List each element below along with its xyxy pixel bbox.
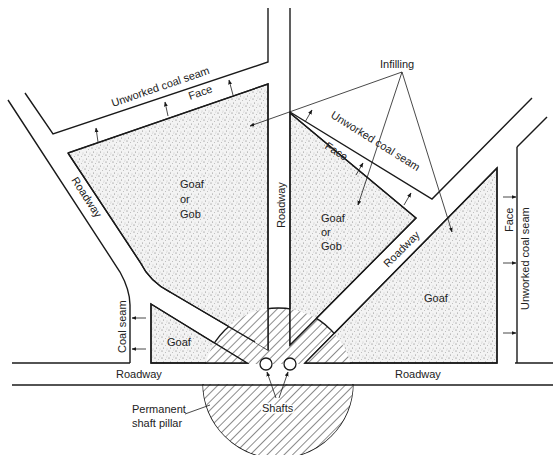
label-face-right: Face [503, 208, 515, 232]
label-shafts: Shafts [262, 402, 294, 414]
label-goaf-left-3: Gob [180, 208, 201, 220]
roadway-bottom [10, 364, 553, 384]
shaft-1 [260, 358, 272, 370]
label-face-top-left: Face [187, 83, 214, 102]
label-goaf-center-2: or [321, 226, 331, 238]
label-goaf-left-1: Goaf [180, 178, 205, 190]
label-goaf-right: Goaf [424, 292, 449, 304]
label-roadway-bottom-left: Roadway [116, 368, 162, 380]
label-unworked-right: Unworked coal seam [519, 207, 531, 310]
label-infilling: Infilling [380, 58, 414, 70]
label-roadway-bottom-right: Roadway [395, 368, 441, 380]
label-roadway-middle: Roadway [275, 182, 287, 228]
label-coal-seam: Coal seam [116, 300, 128, 353]
label-goaf-small: Goaf [167, 336, 192, 348]
shaft-2 [284, 358, 296, 370]
mine-layout-diagram: Infilling Unworked coal seam Face Unwork… [0, 0, 553, 455]
label-goaf-center-1: Goaf [321, 212, 346, 224]
label-pillar-1: Permanent [132, 403, 186, 415]
label-pillar-2: shaft pillar [132, 417, 182, 429]
label-goaf-left-2: or [180, 193, 190, 205]
label-goaf-center-3: Gob [321, 240, 342, 252]
